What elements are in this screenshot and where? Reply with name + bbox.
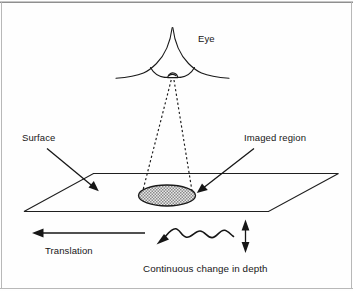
figure-page: Eye Surface Imaged region Translation Co… (0, 0, 353, 291)
label-eye: Eye (198, 33, 215, 44)
label-imaged-region: Imaged region (244, 132, 306, 143)
label-surface: Surface (22, 132, 55, 143)
diagram-canvas: Eye Surface Imaged region Translation Co… (0, 0, 353, 291)
label-depth-caption: Continuous change in depth (143, 263, 268, 274)
label-translation: Translation (45, 245, 93, 256)
stippled-ellipse-icon (139, 185, 196, 206)
